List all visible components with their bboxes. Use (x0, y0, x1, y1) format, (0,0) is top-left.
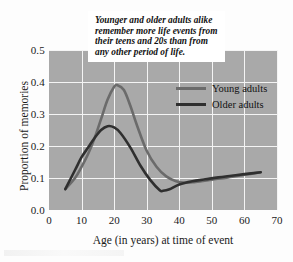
x-axis-tick-labels: 010203040506070 (49, 215, 277, 229)
legend-line-swatch (176, 87, 206, 90)
legend-line-swatch (176, 103, 206, 106)
legend-label: Young adults (212, 83, 267, 94)
x-axis-tick-label: 70 (262, 215, 292, 226)
legend-label: Older adults (212, 99, 264, 110)
caption-callout-text: Younger and older adults alike remember … (95, 15, 220, 57)
x-axis-title: Age (in years) at time of event (49, 234, 277, 246)
x-axis-tick-label: 50 (197, 215, 227, 226)
chart-curves (49, 50, 277, 210)
x-axis-tick-label: 20 (99, 215, 129, 226)
caption-callout-box: Younger and older adults alike remember … (88, 11, 225, 62)
chart-figure: 0.50.40.30.20.10.0 Proportion of memorie… (0, 0, 293, 262)
chart-legend: Young adultsOlder adults (176, 82, 274, 114)
y-axis-title: Proportion of memories (18, 56, 30, 216)
y-axis-tick-label: 0.5 (1, 45, 45, 56)
x-axis-tick-label: 0 (34, 215, 64, 226)
gridline-vertical (277, 50, 278, 210)
x-axis-tick-label: 40 (164, 215, 194, 226)
plot-area (49, 50, 277, 210)
legend-item-young-adults: Young adults (176, 82, 274, 95)
x-axis-tick-label: 60 (229, 215, 259, 226)
x-axis-tick-label: 30 (132, 215, 162, 226)
scan-artifact (4, 250, 124, 256)
legend-item-older-adults: Older adults (176, 98, 274, 111)
x-axis-tick-label: 10 (67, 215, 97, 226)
